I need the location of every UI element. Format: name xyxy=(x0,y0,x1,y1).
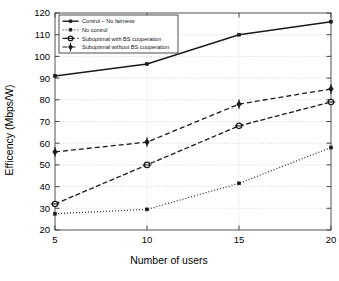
marker-square xyxy=(69,28,72,31)
x-tick-label: 10 xyxy=(142,234,153,245)
figure-container: 5101520 2030405060708090100110120 Number… xyxy=(0,0,339,281)
x-tick-label: 20 xyxy=(326,234,337,245)
y-tick-label: 40 xyxy=(39,181,50,192)
legend-label: Control – No fairness xyxy=(82,18,135,24)
legend-label: No control xyxy=(82,27,108,33)
y-tick-label: 100 xyxy=(34,51,50,62)
y-tick-label: 90 xyxy=(39,73,50,84)
x-tick-label: 5 xyxy=(52,234,57,245)
marker-square xyxy=(54,74,57,77)
efficiency-line-chart: 5101520 2030405060708090100110120 Number… xyxy=(0,0,339,281)
y-tick-label: 50 xyxy=(39,159,50,170)
marker-square xyxy=(330,20,333,23)
marker-square xyxy=(330,146,333,149)
y-axis-title: Efficency (Mbps/W) xyxy=(3,85,15,176)
x-axis-title: Number of users xyxy=(130,254,208,266)
y-tick-label: 20 xyxy=(39,224,50,235)
marker-square xyxy=(69,20,72,23)
marker-square xyxy=(238,33,241,36)
legend-label: Suboptimal without BS cooperation xyxy=(82,44,169,50)
y-tick-label: 120 xyxy=(34,7,50,18)
marker-square xyxy=(146,208,149,211)
y-tick-label: 70 xyxy=(39,116,50,127)
legend-label: Suboptimal with BS cooperation xyxy=(82,36,161,42)
x-tick-label: 15 xyxy=(234,234,245,245)
marker-square xyxy=(54,212,57,215)
marker-square xyxy=(238,182,241,185)
chart-legend: Control – No fairnessNo controlSuboptima… xyxy=(59,15,178,53)
y-tick-label: 110 xyxy=(35,29,50,40)
marker-square xyxy=(146,63,149,66)
y-tick-label: 60 xyxy=(39,138,50,149)
y-tick-label: 80 xyxy=(39,94,50,105)
y-tick-label: 30 xyxy=(39,203,50,214)
